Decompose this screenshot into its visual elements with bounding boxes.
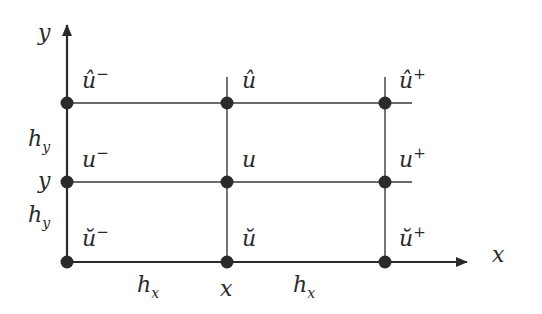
y-axis-label: y bbox=[37, 20, 51, 45]
hx-left-label: hx bbox=[137, 272, 159, 301]
node-middle-left bbox=[61, 176, 74, 189]
node-middle-right bbox=[379, 176, 392, 189]
node-bottom-right bbox=[379, 256, 392, 269]
label-top-center: û bbox=[242, 68, 256, 93]
hy-bottom-label: hy bbox=[28, 202, 51, 231]
label-bottom-left: ŭ− bbox=[82, 223, 109, 251]
stencil-diagram: y x y x hy hy hx hx û− û û+ u− u u+ ŭ− ŭ… bbox=[0, 0, 542, 314]
x-axis-label: x bbox=[492, 242, 505, 267]
node-top-left bbox=[61, 97, 74, 110]
hx-right-label: hx bbox=[293, 272, 315, 301]
node-middle-center bbox=[221, 176, 234, 189]
node-bottom-center bbox=[221, 256, 234, 269]
stencil-svg: y x y x hy hy hx hx û− û û+ u− u u+ ŭ− ŭ… bbox=[0, 0, 542, 314]
node-bottom-left bbox=[61, 256, 74, 269]
label-bottom-right: ŭ+ bbox=[399, 223, 426, 251]
y-center-label: y bbox=[37, 168, 51, 193]
node-top-center bbox=[221, 97, 234, 110]
x-center-label: x bbox=[220, 276, 233, 301]
hy-top-label: hy bbox=[28, 126, 51, 155]
label-top-left: û− bbox=[82, 65, 109, 93]
label-top-right: û+ bbox=[399, 65, 426, 93]
label-bottom-center: ŭ bbox=[242, 226, 256, 251]
label-middle-center: u bbox=[242, 147, 256, 172]
label-middle-left: u− bbox=[82, 144, 109, 172]
label-middle-right: u+ bbox=[399, 144, 426, 172]
node-top-right bbox=[379, 97, 392, 110]
